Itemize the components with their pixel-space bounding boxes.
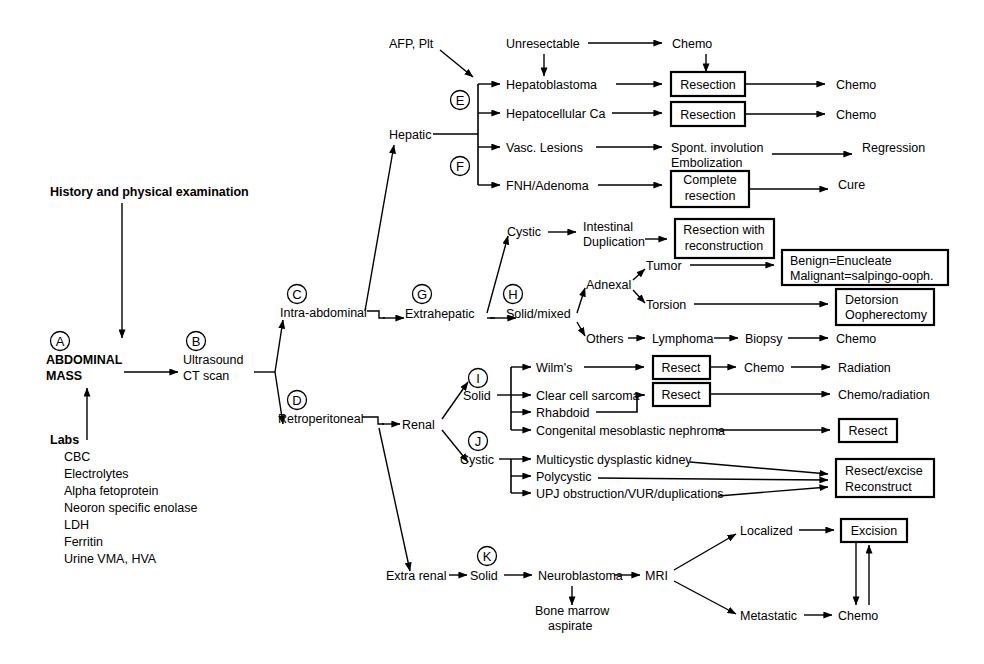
lab-item-5: Ferritin [64, 535, 103, 549]
node-vasc-lesions: Vasc. Lesions [506, 141, 583, 155]
node-renal: Renal [402, 418, 435, 432]
lab-item-2: Alpha fetoprotein [64, 484, 159, 498]
marker-h-label: H [508, 287, 517, 302]
node-congenital-mesoblastic: Congenital mesoblastic nephroma [536, 424, 725, 438]
arrow-afp-to-bus [440, 50, 473, 77]
node-chemo-wilms: Chemo [744, 361, 784, 375]
node-chemo-1: Chemo [836, 78, 876, 92]
node-clear-cell-sarcoma: Clear cell sarcoma [536, 389, 640, 403]
marker-j-label: J [475, 434, 482, 449]
node-torsion: Torsion [646, 298, 686, 312]
node-solid-mixed: Solid/mixed [506, 307, 571, 321]
abdominal-mass-line1: ABDOMINAL [46, 353, 123, 367]
box-resect-1-label: Resect [662, 361, 701, 375]
node-fnh-adenoma: FNH/Adenoma [506, 179, 589, 193]
box-oopherectomy-label: Oopherectomy [845, 308, 928, 322]
arrow-mri-to-localized [674, 534, 736, 570]
marker-b-label: B [192, 334, 201, 349]
arrow-solidmixed-to-others [577, 322, 585, 336]
box-reconstruct-label: Reconstruct [845, 480, 912, 494]
arrow-upj-to-resect-excise [718, 487, 828, 496]
node-intra-abdominal: Intra-abdominal [280, 306, 367, 320]
node-aspirate: aspirate [548, 619, 593, 633]
node-chemo-top: Chemo [672, 37, 712, 51]
node-chemo-metastatic: Chemo [838, 609, 878, 623]
arrow-mri-to-metastatic [674, 581, 736, 614]
marker-d-label: D [292, 393, 301, 408]
node-adnexal: Adnexal [586, 278, 631, 292]
lab-item-6: Urine VMA, HVA [64, 552, 157, 566]
node-cure: Cure [838, 178, 865, 192]
box-complete-line1: Complete [683, 173, 737, 187]
box-resect-3-label: Resect [849, 424, 888, 438]
marker-c-label: C [292, 287, 301, 302]
flowchart-canvas: History and physical examination A ABDOM… [0, 0, 984, 664]
node-metastatic: Metastatic [740, 609, 797, 623]
arrow-intra-to-hepatic [365, 145, 394, 311]
box-detorsion-label: Detorsion [845, 293, 899, 307]
box-resect-2-label: Resect [662, 388, 701, 402]
node-cystic-renal: Cystic [460, 453, 494, 467]
node-neuroblastoma: Neuroblastoma [538, 569, 623, 583]
marker-a-label: A [56, 334, 65, 349]
node-others: Others [586, 332, 624, 346]
lab-item-0: CBC [64, 450, 90, 464]
node-lymphoma: Lymphoma [652, 332, 713, 346]
arrow-to-intra-abdominal [275, 320, 283, 372]
node-regression: Regression [862, 141, 925, 155]
imaging-line1: Ultrasound [183, 353, 243, 367]
lab-item-1: Electrolytes [64, 467, 129, 481]
node-upj: UPJ obstruction/VUR/duplications [536, 487, 724, 501]
box-resection-2-label: Resection [680, 108, 736, 122]
node-chemo-radiation: Chemo/radiation [838, 388, 930, 402]
retro-elbow [362, 417, 384, 424]
node-afp-plt: AFP, Plt [389, 37, 434, 51]
labs-heading: Labs [50, 433, 79, 447]
box-complete-line2: resection [685, 189, 736, 203]
box-reconstruction-label: reconstruction [685, 239, 764, 253]
node-multicystic: Multicystic dysplastic kidney [536, 453, 692, 467]
node-cystic-extrahepatic: Cystic [507, 225, 541, 239]
node-tumor: Tumor [646, 259, 682, 273]
node-solid-renal: Solid [463, 389, 491, 403]
node-embolization: Embolization [671, 156, 743, 170]
node-polycystic: Polycystic [536, 470, 592, 484]
abdominal-mass-line2: MASS [46, 369, 82, 383]
imaging-line2: CT scan [183, 369, 229, 383]
node-hepatic: Hepatic [389, 128, 431, 142]
node-chemo-lymphoma: Chemo [836, 332, 876, 346]
node-extrahepatic: Extrahepatic [405, 307, 474, 321]
node-hepatocellular-ca: Hepatocellular Ca [506, 107, 605, 121]
box-resect-excise-label: Resect/excise [845, 464, 923, 478]
node-spont-involution: Spont. involution [671, 141, 763, 155]
arrow-polycystic-to-resect-excise [598, 478, 828, 480]
arrow-solidmixed-to-adnexal [577, 288, 585, 313]
node-biopsy: Biopsy [745, 332, 783, 346]
intra-elbow [367, 311, 385, 318]
box-resection-1-label: Resection [680, 78, 736, 92]
arrow-adnexal-to-torsion [633, 290, 645, 303]
node-hepatoblastoma: Hepatoblastoma [506, 78, 597, 92]
algorithm-diagram: History and physical examination A ABDOM… [0, 0, 984, 664]
node-rhabdoid: Rhabdoid [536, 406, 590, 420]
marker-g-label: G [417, 287, 427, 302]
node-mri: MRI [645, 569, 668, 583]
box-benign-label: Benign=Enucleate [790, 254, 892, 268]
history-label: History and physical examination [50, 185, 249, 199]
node-extra-renal: Extra renal [386, 569, 446, 583]
node-bone-marrow: Bone marrow [535, 604, 610, 618]
marker-f-label: F [456, 159, 464, 174]
box-malignant-label: Malignant=salpingo-ooph. [790, 269, 934, 283]
lab-item-3: Neoron specific enolase [64, 501, 197, 515]
node-solid-extra: Solid [470, 569, 498, 583]
node-intestinal: Intestinal [583, 220, 633, 234]
arrow-retro-to-extra-renal [379, 428, 410, 571]
node-retroperitoneal: Retroperitoneal [278, 412, 363, 426]
node-radiation: Radiation [838, 361, 891, 375]
box-excision-label: Excision [851, 524, 898, 538]
arrow-extrahepatic-to-cystic [487, 236, 508, 313]
marker-e-label: E [456, 93, 465, 108]
node-unresectable: Unresectable [506, 37, 580, 51]
arrow-adnexal-to-tumor [633, 269, 645, 280]
node-wilms: Wilm's [536, 361, 572, 375]
